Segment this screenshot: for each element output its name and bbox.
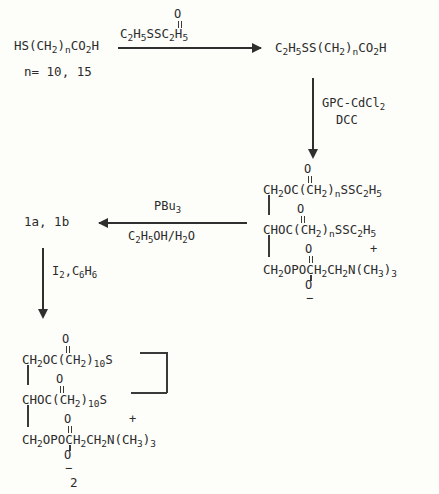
intermediate-line1-carbonyl-oxygen: O [304,163,311,175]
intermediate-phosphate-top-oxygen: O [305,243,312,255]
final-phosphate-top-oxygen: O [64,413,71,425]
intermediate-backbone-bond-2 [268,235,270,257]
reagent1-formula: C2H5SSC2H5 [120,28,188,42]
final-backbone-bond-2 [27,405,29,427]
final-backbone-bond-1 [27,365,29,385]
chain-length-note: n= 10, 15 [24,66,92,79]
starting-material-formula: HS(CH2)nCO2H [14,40,99,54]
reagent3-below: C2H5OH/H2O [128,230,195,245]
intermediate-line1-formula: CH2OC(CH2)nSSC2H5 [263,184,382,198]
intermediate-phosphate-bottom-oxygen: O [305,279,312,291]
final-line2-formula: CHOC(CH2)10S [22,394,107,408]
intermediate-line2-formula: CHOC(CH2)nSSC2H5 [263,224,376,238]
reaction-arrow-3 [99,222,247,224]
final-line3-formula: CH2OPOCH2CH2N(CH3)3 [22,434,156,448]
disulfide-bridge-vertical-segment [166,352,168,393]
disulfide-bridge-bottom-segment [131,392,167,394]
reagent2-line2: DCC [336,114,358,126]
reaction-scheme-figure: HS(CH2)nCO2H n= 10, 15 O C2H5SSC2H5 C2H5… [0,0,439,494]
reagent3-above: PBu3 [154,200,181,215]
reaction-arrow-1 [118,47,261,49]
product1-formula: C2H5SS(CH2)nCO2H [275,42,387,56]
intermediate-line3-formula: CH2OPOCH2CH2N(CH3)3 [263,264,397,278]
final-phosphate-bottom-oxygen: O [64,449,71,461]
final-line1-carbonyl-oxygen: O [62,333,69,345]
compound-number-label: 2 [70,475,78,490]
reagent1-carbonyl-oxygen: O [174,8,181,20]
disulfide-bridge-top-segment [140,352,167,354]
reaction-arrow-4 [42,248,44,310]
final-line1-formula: CH2OC(CH2)10S [22,354,113,368]
reagent2-line1: GPC-CdCl2 [322,97,385,112]
reaction-arrow-2 [312,78,314,150]
reagent4-formula: I2,C6H6 [52,265,97,280]
intermediate-phosphate-charge: − [306,292,313,304]
final-ammonium-charge: + [129,413,136,425]
intermediate-line2-carbonyl-oxygen: O [297,203,304,215]
product-1a-1b-label: 1a, 1b [24,216,69,229]
intermediate-ammonium-charge: + [370,243,377,255]
final-phosphate-charge: − [65,462,72,474]
intermediate-backbone-bond-1 [268,195,270,215]
final-line2-carbonyl-oxygen: O [56,373,63,385]
